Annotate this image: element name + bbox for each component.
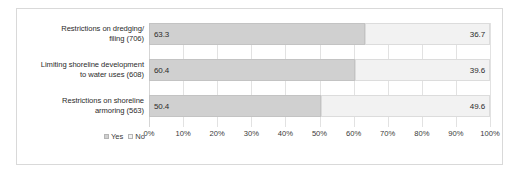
bar-segment-no[interactable]: 39.6 <box>355 59 490 81</box>
legend-item-yes[interactable]: Yes <box>104 132 123 141</box>
category-label-dredging: Restrictions on dredging/ filing (706) <box>18 24 144 44</box>
data-label-yes: 50.4 <box>150 102 173 111</box>
x-tick-label-50: 50% <box>312 129 327 138</box>
square-marker-icon <box>104 134 109 139</box>
x-tick-label-30: 30% <box>244 129 259 138</box>
category-label-line-1: Limiting shoreline development <box>41 60 144 69</box>
x-tick-label-10: 10% <box>175 129 190 138</box>
bar-segment-yes[interactable]: 60.4 <box>149 59 355 81</box>
plot-area: 63.3 36.7 60.4 39.6 <box>149 23 490 127</box>
bar-segment-no[interactable]: 49.6 <box>321 95 490 117</box>
x-tick-label-40: 40% <box>278 129 293 138</box>
category-label-line-2: filing (706) <box>109 34 144 43</box>
data-label-no: 39.6 <box>466 66 489 75</box>
category-label-line-1: Restrictions on dredging/ <box>61 24 144 33</box>
data-label-yes: 63.3 <box>150 30 173 39</box>
legend-label-yes: Yes <box>111 132 123 141</box>
bar-segment-no[interactable]: 36.7 <box>365 23 490 45</box>
x-tick-label-80: 80% <box>414 129 429 138</box>
x-axis-ticks: 0% 10% 20% 30% 40% 50% 60% 70% 80% 90% 1… <box>149 129 490 143</box>
legend-item-no[interactable]: No <box>128 132 145 141</box>
data-label-no: 36.7 <box>466 30 489 39</box>
chart-figure: Restrictions on dredging/ filing (706) L… <box>0 0 518 175</box>
stacked-bar-chart: Restrictions on dredging/ filing (706) L… <box>17 9 502 164</box>
table-row: 63.3 36.7 <box>149 23 490 45</box>
bar-segment-yes[interactable]: 63.3 <box>149 23 365 45</box>
chart-frame: Restrictions on dredging/ filing (706) L… <box>16 8 503 165</box>
square-marker-icon <box>128 134 133 139</box>
category-label-line-2: to water uses (608) <box>80 70 144 79</box>
category-label-line-2: armoring (563) <box>95 106 144 115</box>
table-row: 50.4 49.6 <box>149 95 490 117</box>
x-tick-label-70: 70% <box>380 129 395 138</box>
data-label-no: 49.6 <box>466 102 489 111</box>
category-axis: Restrictions on dredging/ filing (706) L… <box>17 23 149 127</box>
bar-segment-yes[interactable]: 50.4 <box>149 95 321 117</box>
data-label-yes: 60.4 <box>150 66 173 75</box>
x-tick-label-90: 90% <box>448 129 463 138</box>
chart-legend: Yes No <box>83 129 145 143</box>
table-row: 60.4 39.6 <box>149 59 490 81</box>
bar-rows: 63.3 36.7 60.4 39.6 <box>149 23 490 127</box>
x-tick-label-20: 20% <box>210 129 225 138</box>
category-label-shoreline-development: Limiting shoreline development to water … <box>18 60 144 80</box>
x-tick-label-60: 60% <box>346 129 361 138</box>
category-label-line-1: Restrictions on shoreline <box>62 96 144 105</box>
category-label-shoreline-armoring: Restrictions on shoreline armoring (563) <box>18 96 144 116</box>
x-tick-label-0: 0% <box>144 129 155 138</box>
x-tick-label-100: 100% <box>480 129 499 138</box>
gridline-100 <box>490 23 491 127</box>
